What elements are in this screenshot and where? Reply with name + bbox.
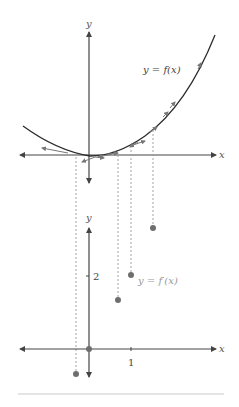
- f-curve: [23, 35, 215, 156]
- bottom-chart: 2 1 y x y = f′(x): [20, 212, 225, 377]
- point: [73, 371, 79, 377]
- derivative-points: [73, 225, 156, 377]
- point: [115, 297, 121, 303]
- f-curve-label: y = f(x): [142, 64, 181, 75]
- y-tick-label-2: 2: [93, 271, 99, 282]
- point: [150, 225, 156, 231]
- fprime-label: y = f′(x): [137, 275, 178, 286]
- point: [128, 272, 134, 278]
- top-chart: y x y = f(x): [20, 18, 225, 183]
- top-y-axis-label: y: [85, 18, 92, 29]
- derivative-figure: y x y = f(x) 2 1 y x y = f′(x): [0, 0, 239, 407]
- tangent-arrows: [42, 63, 201, 162]
- point: [86, 346, 92, 352]
- bottom-x-axis-label: x: [219, 343, 225, 354]
- top-x-axis-label: x: [219, 149, 225, 160]
- dashed-connectors: [76, 130, 153, 374]
- bottom-y-axis-label: y: [85, 212, 92, 223]
- x-tick-label-1: 1: [128, 357, 134, 368]
